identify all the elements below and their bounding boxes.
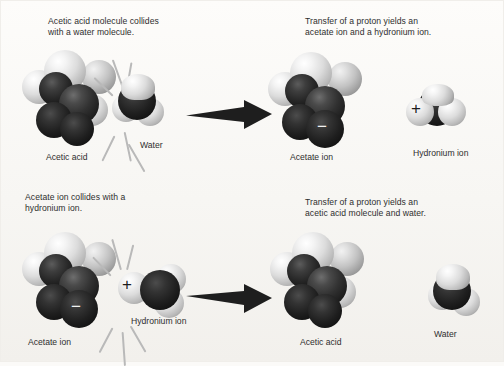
- reaction-arrow-bottom: [186, 282, 272, 316]
- label-water-top: Water: [140, 140, 163, 151]
- label-water-bottom: Water: [434, 329, 457, 340]
- charge-positive: +: [122, 276, 132, 293]
- caption-top-left: Acetic acid molecule collides with a wat…: [48, 16, 159, 38]
- caption-top-right: Transfer of a proton yields an acetate i…: [305, 16, 431, 38]
- atom-oxygen: [140, 270, 180, 310]
- collision-spark: [102, 136, 116, 162]
- molecule-water-top: [112, 72, 174, 134]
- atom-hydrogen-top: [422, 84, 454, 106]
- label-hydronium-ion-top: Hydronium ion: [413, 148, 468, 159]
- molecule-water-bottom: [428, 264, 490, 326]
- reaction-arrow-top: [186, 98, 272, 132]
- label-acetic-acid-bottom: Acetic acid: [300, 337, 342, 348]
- charge-negative: −: [317, 118, 327, 135]
- charge-negative: −: [71, 298, 81, 315]
- atom-oxygen: [308, 294, 342, 328]
- label-acetic-acid-top: Acetic acid: [46, 152, 88, 163]
- molecule-hydronium-ion-top: +: [406, 84, 470, 144]
- atom-oxygen-highlight: [121, 74, 155, 100]
- atom-oxygen: [60, 112, 94, 146]
- label-acetate-ion-top: Acetate ion: [290, 152, 333, 163]
- caption-bottom-right: Transfer of a proton yields an acetic ac…: [305, 197, 426, 219]
- charge-positive: +: [411, 100, 421, 117]
- molecule-acetic-acid-bottom: [270, 228, 380, 328]
- atom-oxygen-highlight: [436, 264, 470, 290]
- label-hydronium-ion-bottom: Hydronium ion: [131, 316, 186, 327]
- label-acetate-ion-bottom: Acetate ion: [28, 337, 71, 348]
- molecule-acetate-ion-top: −: [268, 48, 378, 148]
- caption-bottom-left: Acetate ion collides with a hydronium io…: [25, 192, 125, 214]
